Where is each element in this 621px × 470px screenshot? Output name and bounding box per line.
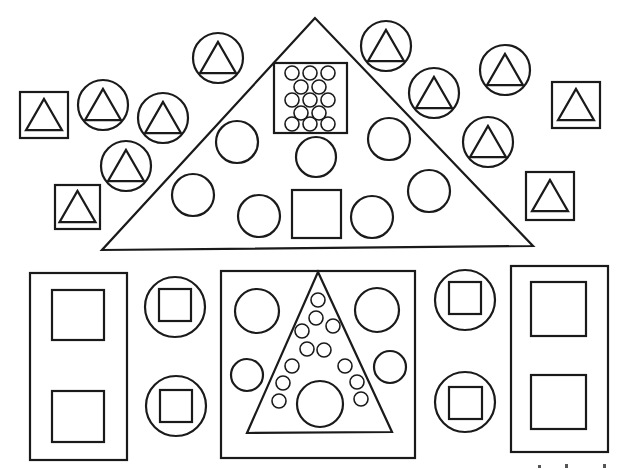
triangle xyxy=(26,99,62,130)
small-circle xyxy=(300,342,314,356)
triangle-in-circle xyxy=(480,45,530,95)
small-circle xyxy=(321,117,335,131)
triangle-in-square xyxy=(20,92,68,138)
triangle-in-square xyxy=(55,185,100,229)
right-rect-square-top xyxy=(531,282,586,336)
square xyxy=(160,390,192,422)
small-circle xyxy=(311,293,325,307)
triangle xyxy=(145,102,181,133)
right-rectangle xyxy=(511,266,608,452)
small-circle xyxy=(285,359,299,373)
right-rect-square-bottom xyxy=(531,375,586,429)
left-rectangle xyxy=(30,273,127,460)
triangle xyxy=(487,54,523,85)
center-rect-circle xyxy=(235,289,279,333)
shapes-drawing xyxy=(0,0,621,470)
small-circle xyxy=(276,376,290,390)
left-circle-square-bottom xyxy=(146,376,206,436)
inner-circle xyxy=(172,174,214,216)
small-circle xyxy=(326,319,340,333)
small-circle xyxy=(272,394,286,408)
square xyxy=(449,387,482,419)
triangle-in-square-group xyxy=(20,82,600,229)
left-circle-square-top xyxy=(145,277,205,337)
triangle xyxy=(60,191,96,222)
small-circle xyxy=(303,66,317,80)
small-circle xyxy=(294,80,308,94)
small-circle xyxy=(321,93,335,107)
circle xyxy=(146,376,206,436)
triangle-in-square xyxy=(552,82,600,128)
right-rectangle-group xyxy=(511,266,608,452)
inner-circle xyxy=(238,195,280,237)
inner-circle xyxy=(216,121,258,163)
left-rect-square-top xyxy=(52,290,104,340)
scan-marks xyxy=(538,464,606,468)
small-circle xyxy=(350,375,364,389)
small-circle xyxy=(285,93,299,107)
inner-triangle-large-circle xyxy=(297,381,343,427)
inner-circle xyxy=(296,137,336,177)
center-rectangle-group xyxy=(221,271,415,458)
triangle xyxy=(108,150,144,181)
square xyxy=(159,289,191,321)
triangle-in-circle xyxy=(101,141,151,191)
right-circle-square-bottom xyxy=(435,372,495,432)
small-circle xyxy=(321,66,335,80)
small-circle xyxy=(354,392,368,406)
small-circle xyxy=(303,93,317,107)
circle xyxy=(145,277,205,337)
triangle-in-circle xyxy=(193,33,243,83)
triangle xyxy=(532,180,568,211)
triangle xyxy=(368,30,404,61)
small-circle xyxy=(285,117,299,131)
square xyxy=(449,282,481,314)
triangle xyxy=(470,126,506,157)
inner-square xyxy=(292,190,341,238)
left-rectangle-group xyxy=(30,273,127,460)
triangle-in-square xyxy=(526,172,574,220)
small-circle xyxy=(295,324,309,338)
center-rect-circle xyxy=(374,351,406,383)
triangle xyxy=(85,89,121,120)
triangle xyxy=(416,77,452,108)
small-circle xyxy=(317,343,331,357)
center-rectangle xyxy=(221,271,415,458)
small-circles-in-box xyxy=(285,66,335,131)
triangle-in-circle xyxy=(361,21,411,71)
small-circle xyxy=(312,80,326,94)
circle xyxy=(435,372,495,432)
worksheet-canvas xyxy=(0,0,621,470)
small-circle xyxy=(285,66,299,80)
small-circle xyxy=(338,359,352,373)
triangle-in-circle xyxy=(463,117,513,167)
triangle-in-circle xyxy=(138,93,188,143)
small-circle xyxy=(303,117,317,131)
triangle xyxy=(558,89,594,120)
inner-circle xyxy=(351,196,393,238)
left-rect-square-bottom xyxy=(52,391,104,442)
triangle xyxy=(200,42,236,73)
inner-circle xyxy=(368,118,410,160)
center-rect-circle xyxy=(355,288,399,332)
triangle-in-circle xyxy=(409,68,459,118)
center-inner-triangle xyxy=(247,272,392,433)
triangle-in-circle xyxy=(78,80,128,130)
circle xyxy=(435,270,495,330)
center-rect-circle xyxy=(231,359,263,391)
inner-circle xyxy=(408,170,450,212)
right-circle-square-top xyxy=(435,270,495,330)
small-circle xyxy=(309,311,323,325)
